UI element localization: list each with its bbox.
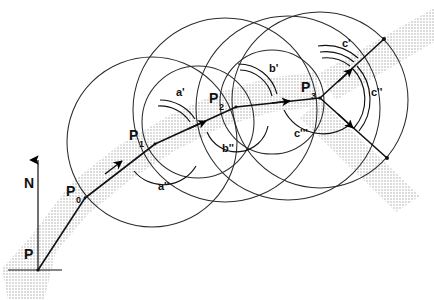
angle-label-a-prime: a'	[176, 86, 185, 98]
point-label-P0-main: P	[66, 183, 75, 199]
vertex-dot-P2	[235, 106, 238, 109]
point-label-P3-sub: 3	[311, 91, 316, 101]
geodesic-diagram: N	[0, 0, 434, 300]
north-arrow-label: N	[24, 175, 34, 191]
point-label-P1-main: P	[129, 127, 138, 143]
vertex-dot-P3	[318, 96, 321, 99]
point-label-P2-main: P	[209, 90, 218, 106]
branch-end-dot-upper	[382, 37, 386, 41]
point-label-P: P	[24, 246, 33, 262]
branch-end-dot-lower	[385, 156, 389, 160]
angle-label-c-triple-prime: c'''	[294, 127, 308, 139]
point-label-P2-sub: 2	[219, 102, 224, 112]
point-label-P3-main: P	[301, 79, 310, 95]
point-label-P0-sub: 0	[76, 195, 81, 205]
vertex-dot-P	[36, 268, 39, 271]
point-label-P-main: P	[24, 246, 33, 262]
point-label-P1-sub: 1	[139, 139, 144, 149]
angle-label-c-double-prime: c''	[371, 86, 383, 98]
angle-label-b-double-prime: b''	[222, 142, 234, 154]
diagram-canvas: N	[0, 0, 434, 300]
vertex-dot-P0	[84, 197, 87, 200]
angle-label-a-double-prime: a''	[158, 180, 170, 192]
angle-label-c-prime: c'	[342, 37, 351, 49]
angle-label-b-prime: b'	[269, 62, 279, 74]
vertex-dot-P1	[154, 143, 157, 146]
